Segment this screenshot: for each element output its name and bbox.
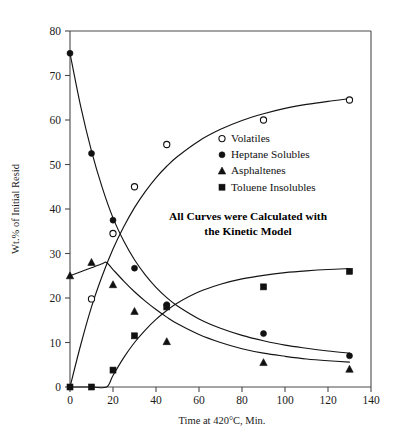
point-heptane-solubles [110,217,116,223]
chart-container: 01020304050607080020406080100120140 Time… [0,0,395,440]
point-asphaltenes [131,307,138,314]
point-heptane-solubles [347,353,353,359]
point-toluene-insolubles [89,384,95,390]
y-tick-label: 40 [50,203,62,215]
point-asphaltenes [163,338,170,345]
x-tick-label: 20 [107,394,119,406]
legend-marker-asphaltenes [218,167,225,174]
point-toluene-insolubles [132,333,138,339]
point-asphaltenes [346,365,353,372]
legend-marker-heptane-solubles [219,152,225,158]
curve-asphaltenes [70,262,350,362]
point-heptane-solubles [261,331,267,337]
legend-marker-toluene-insolubles [219,184,225,190]
point-toluene-insolubles [347,268,353,274]
x-tick-label: 100 [276,394,294,406]
curve-volatiles [70,99,350,387]
y-tick-label: 60 [50,114,62,126]
legend-label-heptane-solubles: Heptane Solubles [231,148,310,160]
point-heptane-solubles [132,265,138,271]
point-toluene-insolubles [67,384,73,390]
point-toluene-insolubles [110,367,116,373]
y-tick-label: 10 [50,337,62,349]
point-volatiles [131,184,137,190]
point-asphaltenes [260,359,267,366]
point-toluene-insolubles [164,304,170,310]
y-tick-label: 80 [50,25,62,37]
point-volatiles [346,97,352,103]
legend: VolatilesHeptane SolublesAsphaltenesTolu… [218,132,315,193]
x-tick-label: 60 [193,394,205,406]
point-asphaltenes [88,259,95,266]
y-tick-label: 70 [50,70,62,82]
y-axis-title: Wt.% of Initial Resid [10,163,21,254]
x-axis-title: Time at 420°C, Min. [179,415,266,426]
point-volatiles [164,141,170,147]
legend-label-volatiles: Volatiles [231,132,270,144]
legend-label-toluene-insolubles: Toluene Insolubles [231,181,316,193]
x-tick-label: 80 [236,394,248,406]
y-tick-label: 30 [50,248,62,260]
legend-marker-volatiles [219,136,225,142]
x-tick-label: 40 [150,394,162,406]
y-tick-label: 20 [50,292,62,304]
y-tick-label: 0 [55,381,61,393]
annotation-line-1: All Curves were Calculated with [169,210,328,222]
axes [70,31,371,387]
point-volatiles [88,296,94,302]
kinetics-scatter-chart: 01020304050607080020406080100120140 Time… [0,0,395,440]
x-tick-label: 120 [319,394,337,406]
point-heptane-solubles [67,50,73,56]
annotation-line-2: the Kinetic Model [204,225,291,237]
x-tick-label: 140 [362,394,380,406]
point-asphaltenes [109,281,116,288]
point-heptane-solubles [89,150,95,156]
point-volatiles [110,230,116,236]
curve-heptane-solubles [70,53,350,353]
x-tick-label: 0 [67,394,73,406]
point-volatiles [260,117,266,123]
point-toluene-insolubles [261,284,267,290]
legend-label-asphaltenes: Asphaltenes [231,164,286,176]
y-tick-label: 50 [50,159,62,171]
